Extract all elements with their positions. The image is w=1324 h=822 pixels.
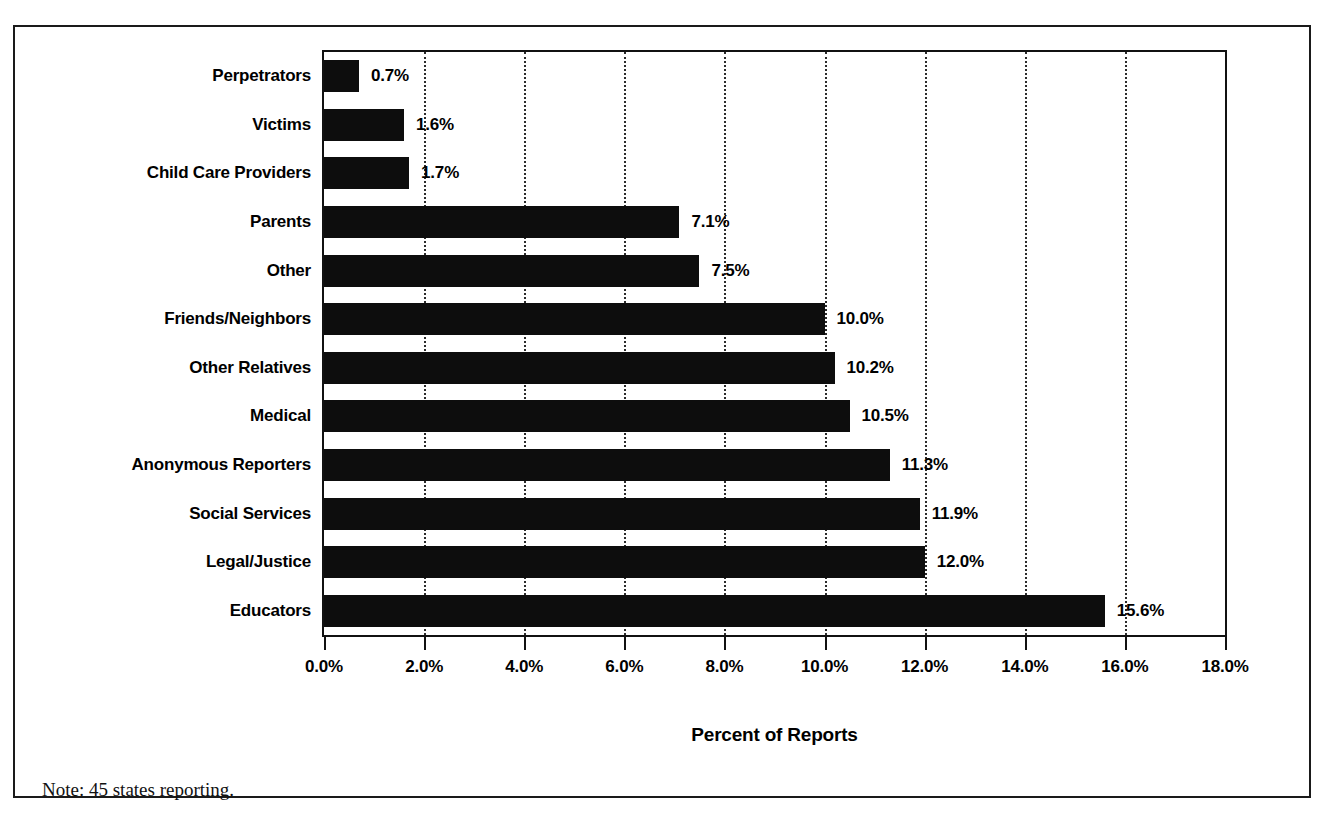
bar-row: 15.6%: [324, 595, 1225, 627]
category-label: Medical: [250, 406, 311, 426]
bar-value-label: 0.7%: [371, 66, 409, 86]
axis-tick-label: 2.0%: [405, 657, 443, 677]
plot-area: 0.7%1.6%1.7%7.1%7.5%10.0%10.2%10.5%11.3%…: [324, 52, 1225, 635]
category-label: Educators: [230, 601, 311, 621]
chart-note: Note: 45 states reporting.: [42, 779, 234, 801]
category-label: Other Relatives: [189, 358, 311, 378]
axis-tick: [324, 637, 326, 650]
bar-value-label: 15.6%: [1117, 601, 1164, 621]
bar: [324, 546, 925, 578]
axis-tick-label: 4.0%: [505, 657, 543, 677]
bar-row: 0.7%: [324, 60, 1225, 92]
axis-tick: [424, 637, 426, 650]
axis-tick: [1025, 637, 1027, 650]
bar-row: 7.1%: [324, 206, 1225, 238]
axis-tick-label: 14.0%: [1001, 657, 1048, 677]
axis-tick: [724, 637, 726, 650]
axis-tick-label: 8.0%: [705, 657, 743, 677]
category-label: Perpetrators: [212, 66, 311, 86]
x-axis-title: Percent of Reports: [322, 724, 1227, 746]
bar-value-label: 7.5%: [711, 261, 749, 281]
bar: [324, 595, 1105, 627]
bar: [324, 255, 699, 287]
bar-value-label: 11.3%: [902, 455, 948, 475]
bar-value-label: 1.7%: [421, 163, 459, 183]
value-axis: 0.0%2.0%4.0%6.0%8.0%10.0%12.0%14.0%16.0%…: [322, 637, 1227, 697]
plot-frame: 0.7%1.6%1.7%7.1%7.5%10.0%10.2%10.5%11.3%…: [322, 50, 1227, 637]
bar-row: 11.9%: [324, 498, 1225, 530]
bar-value-label: 10.2%: [847, 358, 894, 378]
bar-value-label: 10.0%: [837, 309, 884, 329]
category-label: Child Care Providers: [147, 163, 311, 183]
bar: [324, 206, 679, 238]
bar: [324, 109, 404, 141]
category-label: Social Services: [189, 504, 311, 524]
bar-value-label: 7.1%: [691, 212, 729, 232]
bar-row: 1.6%: [324, 109, 1225, 141]
bar-row: 10.5%: [324, 400, 1225, 432]
bar-row: 10.0%: [324, 303, 1225, 335]
axis-tick: [825, 637, 827, 650]
bar-value-label: 12.0%: [937, 552, 984, 572]
category-label: Victims: [252, 115, 311, 135]
bar: [324, 352, 835, 384]
category-label: Legal/Justice: [206, 552, 311, 572]
axis-tick-label: 18.0%: [1201, 657, 1248, 677]
axis-tick-label: 0.0%: [305, 657, 343, 677]
category-label: Parents: [250, 212, 311, 232]
bar-row: 12.0%: [324, 546, 1225, 578]
bar: [324, 449, 890, 481]
bar-row: 11.3%: [324, 449, 1225, 481]
bar: [324, 400, 850, 432]
axis-tick: [624, 637, 626, 650]
axis-tick-label: 6.0%: [605, 657, 643, 677]
bar-row: 10.2%: [324, 352, 1225, 384]
chart-figure: PerpetratorsVictimsChild Care ProvidersP…: [13, 25, 1311, 798]
category-label: Other: [267, 261, 311, 281]
category-label: Friends/Neighbors: [164, 309, 311, 329]
axis-tick: [524, 637, 526, 650]
bar-row: 1.7%: [324, 157, 1225, 189]
bar: [324, 60, 359, 92]
axis-tick-label: 12.0%: [901, 657, 948, 677]
axis-tick: [925, 637, 927, 650]
axis-tick-label: 10.0%: [801, 657, 848, 677]
axis-tick: [1225, 637, 1227, 650]
bar: [324, 157, 409, 189]
bar-value-label: 1.6%: [416, 115, 454, 135]
axis-tick-label: 16.0%: [1101, 657, 1148, 677]
category-axis: PerpetratorsVictimsChild Care ProvidersP…: [15, 50, 311, 637]
bar: [324, 498, 920, 530]
category-label: Anonymous Reporters: [132, 455, 311, 475]
bar-value-label: 11.9%: [932, 504, 978, 524]
axis-tick: [1125, 637, 1127, 650]
bar-value-label: 10.5%: [862, 406, 909, 426]
bar: [324, 303, 825, 335]
bar-row: 7.5%: [324, 255, 1225, 287]
